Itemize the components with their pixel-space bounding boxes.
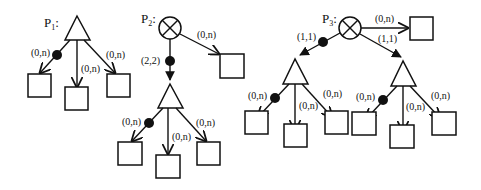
p3-right-box-left — [352, 112, 376, 135]
p3-left-edge-left-label: (0,n) — [248, 90, 267, 102]
diagram-p3: P3: (0,n) (1,1) (1,1) (0,n) (0,n) (0,n) — [245, 11, 456, 148]
p2-sub-edge-right-label: (0,n) — [196, 117, 215, 129]
p1-label: P1: — [44, 15, 59, 32]
p2-edge-right-label: (0,n) — [197, 29, 216, 41]
p2-box-middle — [156, 155, 180, 178]
p3-left-triangle-node — [283, 59, 308, 84]
p3-left-mandatory-dot — [270, 93, 280, 103]
p1-mandatory-dot — [52, 50, 62, 60]
p3-left-edge-right-label: (0,n) — [323, 88, 342, 100]
p3-right-box-right — [432, 112, 456, 135]
p3-edge-top-right-label: (0,n) — [375, 13, 394, 25]
p3-edge-left-label: (1,1) — [297, 31, 316, 43]
p3-right-edge-left-label: (0,n) — [356, 91, 375, 103]
p3-right-box-middle — [390, 125, 414, 148]
p1-box-right — [107, 74, 130, 97]
p1-triangle-node — [65, 16, 90, 40]
p3-left-box-right — [325, 111, 348, 134]
p3-left-box-middle — [284, 124, 307, 147]
p3-box-top — [410, 17, 433, 40]
p2-edge-down-label: (2,2) — [141, 55, 160, 67]
p3-edge-right-label: (1,1) — [378, 33, 397, 45]
p1-edge-right-label: (0,n) — [106, 49, 125, 61]
p3-right-edge-middle-label: (0,n) — [406, 101, 425, 113]
p3-right-mandatory-dot — [378, 95, 388, 105]
p3-right-triangle-node — [391, 61, 416, 86]
p3-left-edge-middle-label: (0,n) — [299, 100, 318, 112]
diagram-p2: P2: (0,n) (2,2) (0,n) (0,n) (0,n) — [118, 11, 244, 178]
diagram-canvas: P1: (0,n) (0,n) (0,n) P2: (0,n) (2,2) — [0, 0, 481, 190]
p2-mandatory-dot — [165, 56, 175, 66]
p2-label: P2: — [141, 11, 156, 28]
p2-box-top — [220, 54, 244, 78]
diagram-p1: P1: (0,n) (0,n) (0,n) — [28, 15, 130, 110]
p2-box-left — [118, 142, 142, 165]
p1-edge-left-label: (0,n) — [31, 47, 50, 59]
p2-box-right — [197, 142, 220, 165]
p2-sub-mandatory-dot — [144, 118, 154, 128]
p3-left-box-left — [245, 111, 268, 134]
p2-circle-x-node — [159, 17, 181, 39]
p1-edge-middle-label: (0,n) — [81, 63, 100, 75]
p3-label: P3: — [322, 11, 337, 28]
p2-triangle-node — [158, 84, 183, 108]
p2-sub-edge-middle-label: (0,n) — [172, 131, 191, 143]
p3-mandatory-dot — [318, 37, 328, 47]
p3-right-edge-right-label: (0,n) — [431, 90, 450, 102]
p3-circle-x-node — [339, 17, 361, 39]
p1-box-middle — [65, 87, 88, 110]
p1-box-left — [28, 74, 51, 97]
p2-sub-edge-left-label: (0,n) — [122, 116, 141, 128]
